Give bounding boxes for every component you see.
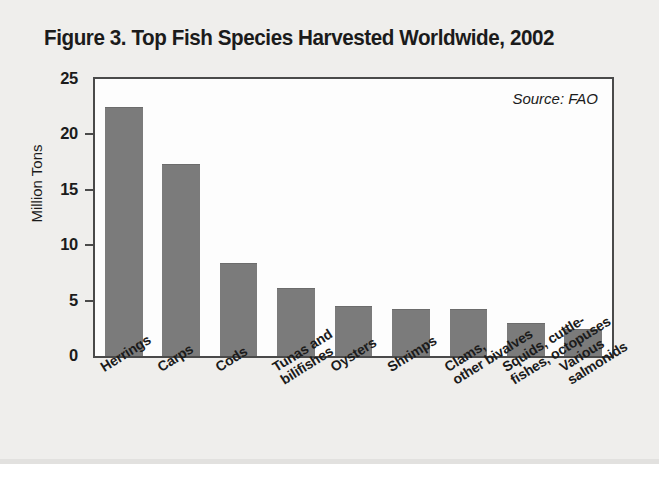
- plot-inner: Source: FAO: [95, 79, 612, 356]
- y-axis-tick-label: 20: [38, 124, 78, 143]
- paper-bottom-edge: [0, 459, 659, 464]
- bar: [162, 164, 200, 356]
- y-axis-tick: [85, 189, 93, 191]
- y-axis-tick: [85, 133, 93, 135]
- y-axis-tick-label: 0: [38, 346, 78, 365]
- figure-page: Figure 3. Top Fish Species Harvested Wor…: [0, 0, 659, 489]
- y-axis-tick-label: 10: [38, 235, 78, 254]
- bar: [105, 107, 143, 356]
- page-title: Figure 3. Top Fish Species Harvested Wor…: [44, 26, 601, 51]
- y-axis-tick-label: 5: [38, 291, 78, 310]
- y-axis-tick-label: 25: [38, 69, 78, 88]
- bar: [220, 263, 258, 356]
- y-axis-tick: [85, 244, 93, 246]
- y-axis-tick: [85, 300, 93, 302]
- plot-area: Source: FAO: [93, 77, 614, 358]
- y-axis-tick-label: 15: [38, 180, 78, 199]
- source-annotation: Source: FAO: [512, 90, 598, 107]
